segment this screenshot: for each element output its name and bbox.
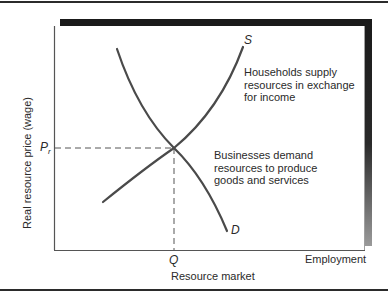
supply-annotation-line: for income [244, 91, 355, 104]
price-label: Pr [40, 141, 51, 158]
bottom-border-rule [0, 289, 388, 291]
demand-annotation-line: Businesses demand [214, 149, 317, 162]
y-axis-label: Real resource price (wage) [21, 97, 33, 229]
supply-curve-label: S [244, 34, 252, 47]
demand-curve-label: D [231, 224, 240, 237]
x-axis-label: Employment [305, 253, 366, 266]
demand-annotation-line: resources to produce [214, 162, 317, 175]
supply-annotation: Households supply resources in exchange … [244, 66, 355, 104]
frame-shadow-right [364, 19, 372, 246]
price-label-main: P [40, 140, 48, 154]
frame-shadow-top [60, 19, 372, 27]
demand-annotation: Businesses demand resources to produce g… [214, 149, 317, 187]
supply-annotation-line: resources in exchange [244, 79, 355, 92]
plot-frame [54, 26, 365, 250]
demand-annotation-line: goods and services [214, 174, 317, 187]
supply-annotation-line: Households supply [244, 66, 355, 79]
quantity-label: Q [169, 254, 178, 267]
price-label-subscript: r [48, 147, 51, 156]
diagram-caption: Resource market [171, 270, 255, 283]
